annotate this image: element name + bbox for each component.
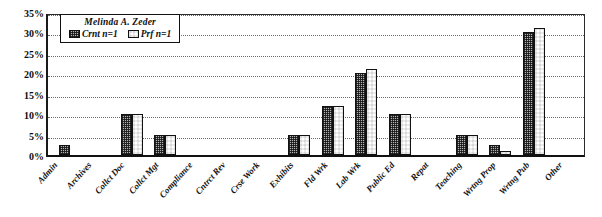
x-axis-tick: Crse Work [248, 159, 282, 217]
legend-title: Melinda A. Zeder [69, 17, 171, 28]
legend-entry: Crnt n=1 [69, 29, 118, 39]
y-axis-tick-label: 30% [4, 29, 44, 39]
bar-group [283, 15, 317, 155]
y-axis-tick-label: 35% [4, 9, 44, 19]
x-axis-tick: Exhibits [282, 159, 316, 217]
bar-chart: 35%30%25%20%15%10%5%0% Melinda A. Zeder … [0, 0, 602, 217]
bar [355, 73, 366, 155]
chart-legend: Melinda A. Zeder Crnt n=1Prf n=1 [60, 14, 180, 43]
x-axis-tick: Repat [417, 159, 451, 217]
x-axis-tick: Public Ed [383, 159, 417, 217]
bar-group [417, 15, 451, 155]
y-axis-tick-label: 15% [4, 91, 44, 101]
legend-entry-label: Crnt n=1 [82, 29, 118, 39]
y-axis-tick-label: 5% [4, 132, 44, 142]
y-axis-tick-label: 0% [4, 152, 44, 162]
x-axis-tick: Wrtng Pub [518, 159, 552, 217]
bar-group [350, 15, 384, 155]
legend-swatch [69, 30, 80, 38]
y-axis: 35%30%25%20%15%10%5%0% [0, 0, 44, 165]
x-axis-tick: Fld Wrk [316, 159, 350, 217]
x-axis: AdminArchivesCollct DocCollct MgtComplia… [46, 159, 585, 217]
y-axis-tick-label: 20% [4, 70, 44, 80]
x-axis-tick: Admin [46, 159, 80, 217]
y-axis-tick-label: 10% [4, 111, 44, 121]
y-axis-tick-label: 25% [4, 50, 44, 60]
bar-group [316, 15, 350, 155]
legend-entries: Crnt n=1Prf n=1 [69, 29, 171, 39]
legend-entry: Prf n=1 [128, 29, 172, 39]
bar [322, 106, 333, 155]
legend-swatch [128, 30, 139, 38]
bar [534, 28, 545, 155]
x-axis-tick: Other [551, 159, 585, 217]
legend-entry-label: Prf n=1 [141, 29, 172, 39]
